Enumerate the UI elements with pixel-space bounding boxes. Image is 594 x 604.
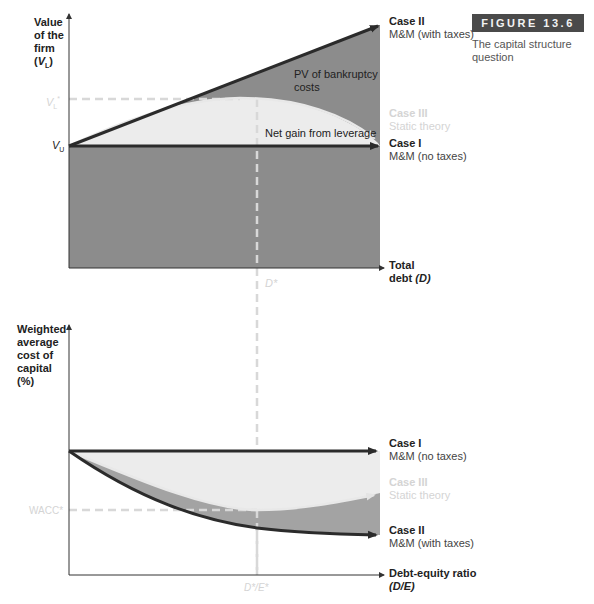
bottom-chart (69, 325, 384, 575)
bottom-y-axis-title: Weighted average cost of capital (%) (17, 323, 66, 388)
top-y-axis-title: Value of the firm (VL) (34, 16, 64, 72)
figure-badge: FIGURE 13.6 (472, 14, 584, 32)
tick-wacc-star: WACC* (29, 504, 63, 517)
bottom-legend-case1: Case I M&M (no taxes) (389, 437, 467, 463)
bottom-legend-case2: Case II M&M (with taxes) (389, 524, 474, 550)
tick-d-star: D* (265, 277, 277, 290)
label-pv-bankruptcy: PV of bankruptcy costs (294, 68, 378, 94)
firm-value-base-area (69, 146, 380, 268)
y-title-line: (VL) (34, 55, 64, 72)
tick-de-star: D*/E* (244, 581, 268, 594)
top-legend-case1: Case I M&M (no taxes) (389, 137, 467, 163)
top-x-axis-title: Total debt (D) (389, 259, 431, 285)
tick-vu: VU (52, 139, 64, 156)
label-net-gain: Net gain from leverage (265, 127, 376, 140)
figure-caption: The capital structure question (472, 38, 592, 64)
bottom-legend-case3: Case III Static theory (389, 476, 450, 502)
top-legend-case3: Case III Static theory (389, 107, 450, 133)
y-title-line: of the (34, 29, 64, 42)
y-title-line: Value (34, 16, 64, 29)
top-legend-case2: Case II M&M (with taxes) (389, 15, 474, 41)
y-title-line: firm (34, 42, 64, 55)
tick-vl-star: VL* (46, 92, 60, 113)
bottom-x-axis-title: Debt-equity ratio (D/E) (389, 567, 476, 593)
